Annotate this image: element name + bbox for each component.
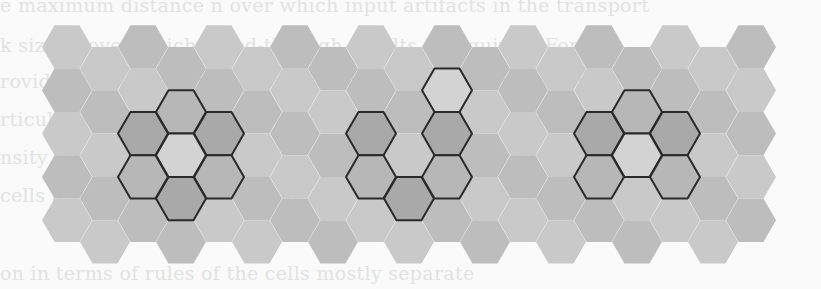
hex-lattice-diagram: [0, 0, 821, 289]
